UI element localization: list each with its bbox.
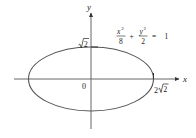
y-intercept-radicand: 2 xyxy=(84,40,88,49)
equals-sign: = xyxy=(152,32,156,41)
origin-label: 0 xyxy=(82,82,86,91)
equation-rhs: 1 xyxy=(165,32,169,41)
x-intercept-radicand: 2 xyxy=(163,85,167,94)
term1-denominator: 8 xyxy=(119,37,123,46)
term2-exponent: 2 xyxy=(144,26,147,31)
y-axis-label: y xyxy=(86,2,91,12)
x-intercept-coefficient: 2 xyxy=(154,86,158,95)
term2-denominator: 2 xyxy=(141,37,145,46)
x-intercept-label: 2 2 xyxy=(154,84,169,95)
term1-exponent: 2 xyxy=(121,26,124,31)
ellipse-equation: x 2 8 + y 2 2 = 1 xyxy=(116,26,169,46)
plus-sign: + xyxy=(130,32,134,41)
ellipse-diagram: y x 0 2 2 2 x 2 8 + y 2 2 = 1 xyxy=(0,0,196,138)
x-axis-label: x xyxy=(182,74,187,84)
